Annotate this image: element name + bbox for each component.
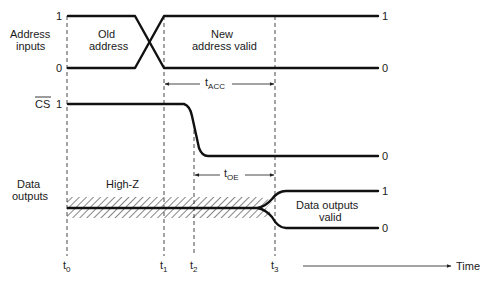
high-z-label: High-Z <box>106 178 139 190</box>
new-address-label-line1: New <box>211 28 233 40</box>
data-end-low: 0 <box>382 222 388 234</box>
time-axis-label: Time <box>456 260 480 272</box>
address-inputs-label-line2: inputs <box>16 40 46 52</box>
cs-end-low: 0 <box>382 150 388 162</box>
chip-select-signal: CS 1 0 <box>35 97 388 162</box>
data-outputs-label-line2: outputs <box>12 190 49 202</box>
address-end-low: 0 <box>382 62 388 74</box>
data-outputs-label-line1: Data <box>17 178 41 190</box>
time-marker-lines <box>67 16 275 256</box>
t1-label: t1 <box>160 259 168 274</box>
cs-label: CS <box>35 98 50 110</box>
cs-level-high: 1 <box>56 98 62 110</box>
t-acc-label: tACC <box>205 76 225 91</box>
timing-diagram: Address inputs 1 0 Old address New addre… <box>0 0 495 284</box>
t-oe-label: tOE <box>224 167 239 182</box>
new-address-label-line2: address valid <box>192 40 257 52</box>
data-valid-label-line1: Data outputs <box>296 199 359 211</box>
time-axis: Time <box>303 260 480 272</box>
old-address-label-line1: Old <box>98 28 115 40</box>
t2-label: t2 <box>190 259 198 274</box>
address-inputs-label-line1: Address <box>10 28 51 40</box>
data-outputs-signal: Data outputs High-Z Data outputs valid 1… <box>12 178 388 234</box>
t-oe-interval: tOE <box>195 167 274 182</box>
data-valid-label-line2: valid <box>319 211 342 223</box>
address-level-high: 1 <box>56 10 62 22</box>
address-level-low: 0 <box>56 62 62 74</box>
t-acc-interval: tACC <box>165 76 274 91</box>
time-marker-labels: t0 t1 t2 t3 <box>63 259 279 274</box>
address-end-high: 1 <box>382 10 388 22</box>
t0-label: t0 <box>63 259 71 274</box>
t3-label: t3 <box>271 259 279 274</box>
old-address-label-line2: address <box>89 40 129 52</box>
data-trace-low <box>258 208 378 228</box>
cs-trace <box>68 104 378 156</box>
data-end-high: 1 <box>382 185 388 197</box>
